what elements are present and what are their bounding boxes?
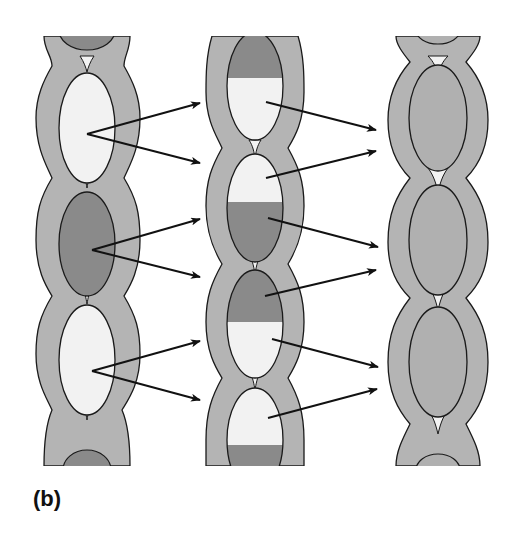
- cell-uniform: [409, 65, 467, 171]
- cell-dark-partial: [63, 450, 111, 490]
- cell-transition-diagram: [0, 0, 519, 536]
- panel-label: (b): [33, 486, 61, 512]
- cell-dark-partial: [59, 10, 115, 50]
- cell-light: [59, 305, 115, 415]
- cell-uniform: [409, 307, 467, 417]
- cell-uniform: [409, 185, 467, 295]
- cell-dark: [59, 192, 115, 296]
- left-column: [36, 10, 140, 490]
- middle-column: [206, 30, 304, 492]
- right-column: [388, 16, 488, 486]
